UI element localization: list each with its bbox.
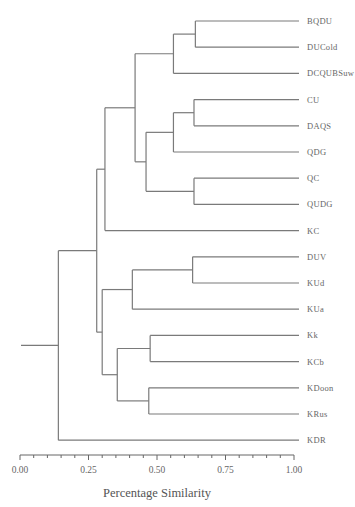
leaf-label: DAQS: [307, 121, 331, 131]
leaf-label: KDR: [307, 435, 326, 445]
leaf-label: KCb: [307, 357, 324, 367]
leaf-label: KDoon: [307, 383, 334, 393]
x-tick-label: 0.00: [12, 465, 29, 475]
leaf-label: QC: [307, 173, 319, 183]
x-tick-label: 0.75: [217, 465, 234, 475]
leaf-label: CU: [307, 95, 319, 105]
leaf-label: DUV: [307, 252, 327, 262]
leaf-label: KUa: [307, 304, 324, 314]
dendrogram-chart: BQDUDUColdDCQUBSuwCUDAQSQDGQCQUDGKCDUVKU…: [0, 0, 355, 507]
x-axis: 0.000.250.500.751.00: [12, 455, 303, 475]
x-tick-label: 0.25: [80, 465, 97, 475]
leaf-label: QDG: [307, 147, 326, 157]
x-axis-title: Percentage Similarity: [103, 486, 212, 500]
leaf-label: BQDU: [307, 16, 332, 26]
x-tick-label: 1.00: [286, 465, 303, 475]
leaf-label: KRus: [307, 409, 328, 419]
dendrogram-branches: [21, 21, 299, 440]
leaf-label: Kk: [307, 330, 318, 340]
leaf-label: KUd: [307, 278, 325, 288]
leaf-label: DUCold: [307, 42, 338, 52]
leaf-labels: BQDUDUColdDCQUBSuwCUDAQSQDGQCQUDGKCDUVKU…: [307, 16, 355, 445]
leaf-label: KC: [307, 226, 319, 236]
leaf-label: DCQUBSuw: [307, 68, 355, 78]
leaf-label: QUDG: [307, 199, 333, 209]
x-tick-label: 0.50: [149, 465, 166, 475]
